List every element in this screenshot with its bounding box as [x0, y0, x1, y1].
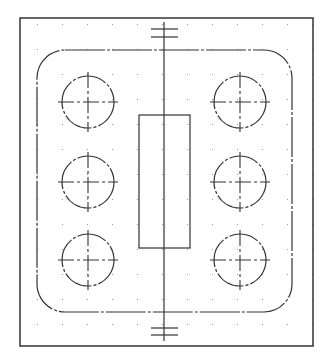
hole-3	[58, 152, 118, 212]
hole-2	[210, 72, 270, 132]
hole-5	[58, 230, 118, 290]
grid-dots	[37, 24, 313, 325]
hole-1	[58, 72, 118, 132]
hole-6	[210, 230, 270, 290]
hole-4	[210, 152, 270, 212]
cad-drawing-canvas	[0, 0, 329, 359]
